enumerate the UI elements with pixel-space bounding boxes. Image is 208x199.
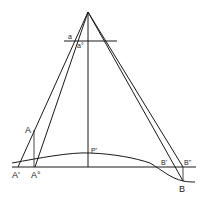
label-A-zero: A° [31,170,41,180]
label-A: A [25,125,31,135]
label-A-prime: A' [12,170,20,180]
label-a-zero: a° [77,42,84,49]
label-B: B [179,184,185,194]
label-P-prime: P' [91,147,97,154]
relief-displacement-diagram: a a° A A' A° P' B' B" B [0,0,208,199]
ray-to-a-zero [35,12,88,167]
label-a: a [68,33,72,40]
ray-to-b-dprime [88,12,183,167]
label-B-dprime: B" [184,159,192,166]
diagram-svg: a a° A A' A° P' B' B" B [0,0,208,199]
ray-to-b [88,12,183,181]
label-B-prime: B' [161,159,167,166]
ray-to-a-prime [18,12,88,167]
